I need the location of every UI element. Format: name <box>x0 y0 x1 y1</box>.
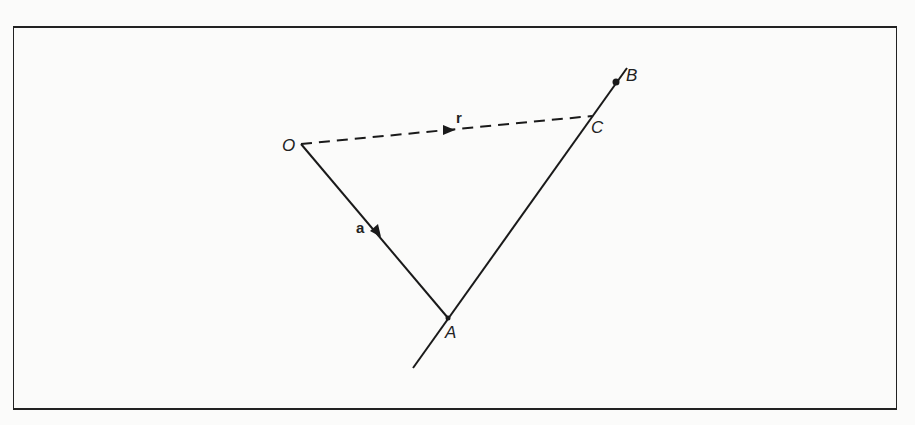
label-o: O <box>282 136 295 155</box>
label-vector-r: r <box>456 109 462 126</box>
label-c: C <box>591 118 604 137</box>
vector-a-arrowhead <box>370 224 381 237</box>
label-b: B <box>626 66 637 85</box>
label-vector-a: a <box>356 219 365 236</box>
vector-diagram: O A B C a r <box>0 0 915 425</box>
vector-r-arrowhead <box>443 125 455 135</box>
point-a-dot <box>446 316 451 321</box>
label-a: A <box>444 323 456 342</box>
point-b-dot <box>613 79 620 86</box>
